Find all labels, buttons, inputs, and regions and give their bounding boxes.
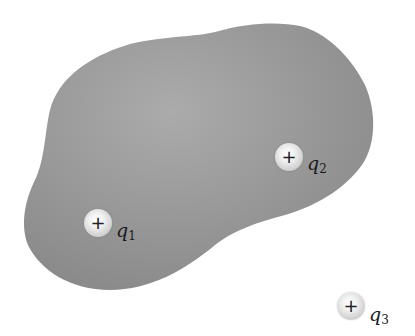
diagram-canvas bbox=[0, 0, 415, 336]
plus-icon: + bbox=[337, 292, 365, 320]
charge-label-q3: q3 bbox=[369, 305, 389, 326]
charge-q1: + bbox=[84, 209, 112, 237]
charge-q2: + bbox=[275, 143, 303, 171]
charge-label-q2: q2 bbox=[307, 154, 327, 175]
charge-label-q1: q1 bbox=[116, 221, 136, 242]
plus-icon: + bbox=[84, 209, 112, 237]
plus-icon: + bbox=[275, 143, 303, 171]
charge-q3: + bbox=[337, 292, 365, 320]
